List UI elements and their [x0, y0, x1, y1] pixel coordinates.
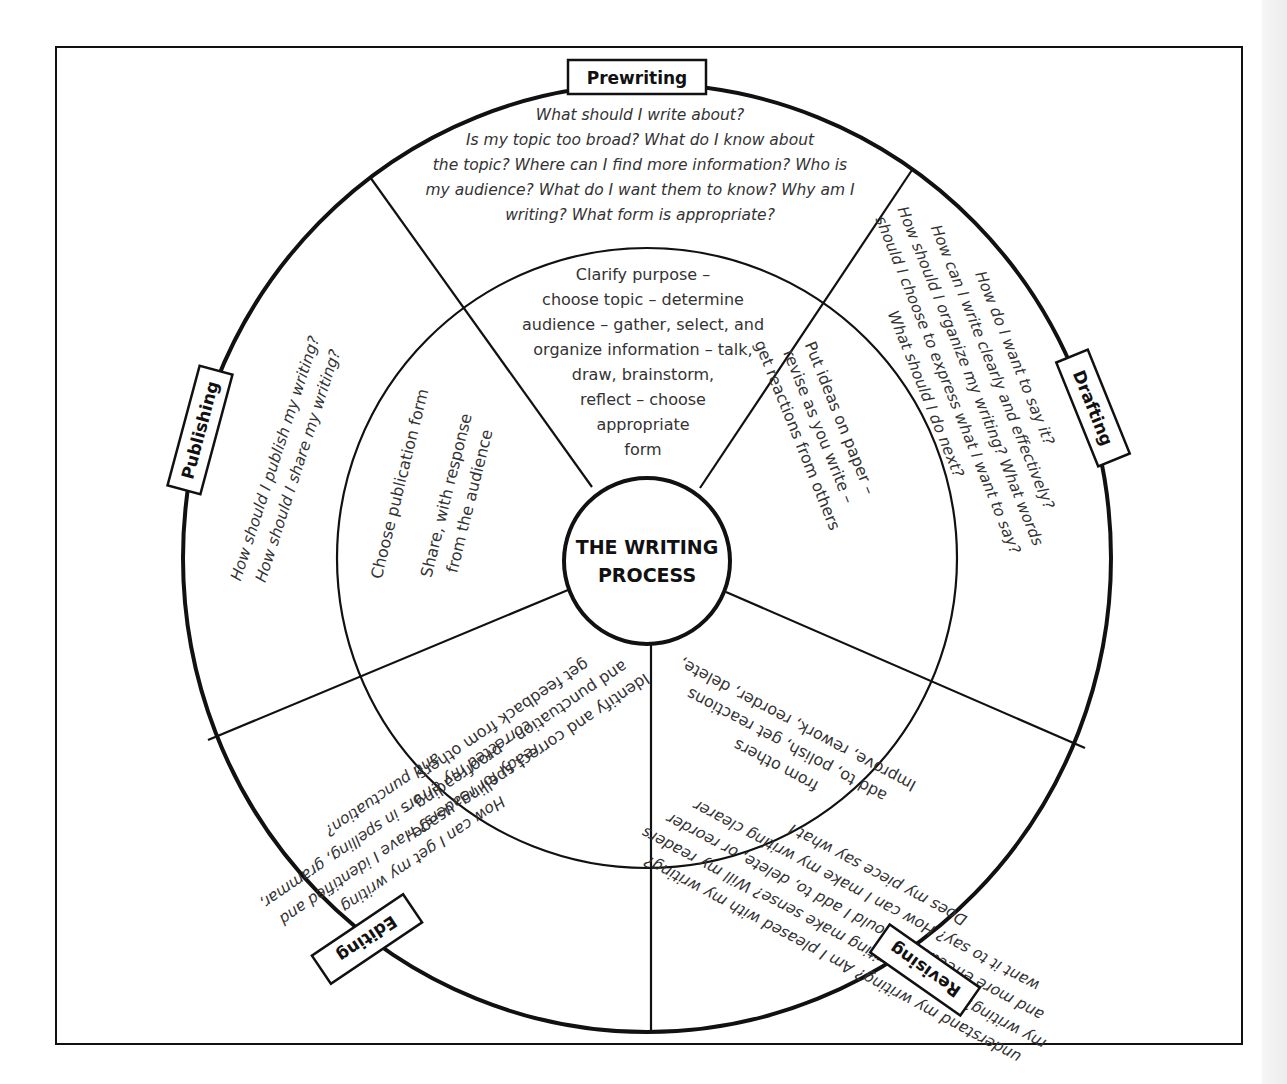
question-line: writing? What form is appropriate? — [505, 206, 775, 224]
question-line: Is my topic too broad? What do I know ab… — [466, 131, 815, 149]
prewriting-label-text: Prewriting — [587, 68, 688, 88]
activity-line: form — [624, 440, 661, 459]
center-circle — [564, 478, 730, 644]
activity-line: reflect – choose — [580, 390, 706, 409]
question-line: the topic? Where can I find more informa… — [433, 156, 847, 174]
center-title-line2: PROCESS — [598, 564, 696, 586]
prewriting-label: Prewriting — [568, 60, 706, 94]
activity-line: organize information – talk, — [533, 340, 752, 359]
activity-line: choose topic – determine — [542, 290, 744, 309]
activity-line: audience – gather, select, and — [522, 315, 764, 334]
question-line: my audience? What do I want them to know… — [425, 181, 854, 199]
center-title-line1: THE WRITING — [576, 536, 719, 558]
activity-line: draw, brainstorm, — [572, 365, 714, 384]
writing-process-wheel: THE WRITING PROCESS What should I write … — [0, 0, 1287, 1084]
question-line: What should I write about? — [536, 106, 744, 124]
activity-line: appropriate — [596, 415, 689, 434]
activity-line: Clarify purpose – — [576, 265, 710, 284]
